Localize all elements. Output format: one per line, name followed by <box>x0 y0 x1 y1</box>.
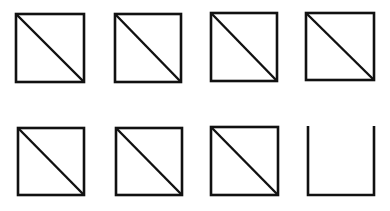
diagonal-line <box>211 13 277 81</box>
square-with-diagonal-figure <box>306 13 374 80</box>
diagonal-line <box>18 128 84 195</box>
diagonal-line <box>115 14 181 82</box>
diagonal-line <box>116 128 182 195</box>
open-box-outline <box>308 126 374 195</box>
diagram-canvas <box>0 0 390 211</box>
square-with-diagonal-figure <box>115 14 181 82</box>
diagonal-line <box>16 14 84 82</box>
square-with-diagonal-figure <box>16 14 84 82</box>
square-with-diagonal-figure <box>211 13 277 81</box>
diagonal-line <box>211 127 278 195</box>
square-with-diagonal-figure <box>18 128 84 195</box>
open-box-figure <box>308 126 374 195</box>
diagonal-line <box>306 13 374 80</box>
square-with-diagonal-figure <box>116 128 182 195</box>
square-with-diagonal-figure <box>211 127 278 195</box>
